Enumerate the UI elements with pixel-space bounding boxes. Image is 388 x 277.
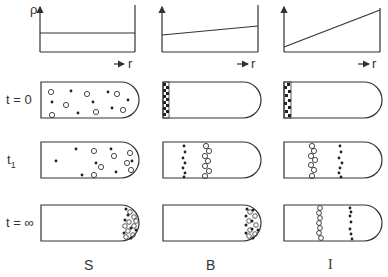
tube-i-t1 xyxy=(284,142,382,178)
particles-s-t0 xyxy=(48,89,129,117)
row-label-t1-sub: 1 xyxy=(11,160,16,170)
density-plot-b xyxy=(162,5,258,64)
row-label-t0: t = 0 xyxy=(6,92,32,107)
particles-i-tinf xyxy=(317,206,354,241)
x-axis-label-i: r xyxy=(372,56,376,71)
tube-b-t1 xyxy=(163,142,261,178)
tubes xyxy=(41,82,382,241)
tube-i-t0 xyxy=(284,82,382,118)
tube-b-tinf xyxy=(163,205,261,241)
particles-s-t1 xyxy=(55,148,134,178)
tube-i-tinf xyxy=(284,205,382,241)
row-label-tinf: t = ∞ xyxy=(6,215,34,230)
x-axis-label-s: r xyxy=(128,56,132,71)
row-label-t1: t1 xyxy=(7,152,16,170)
column-label-i: I xyxy=(328,257,333,273)
particles-i-t1 xyxy=(308,143,343,178)
particles-b-t1 xyxy=(182,143,212,178)
diagram-graphics xyxy=(0,0,388,277)
particles-b-t0 xyxy=(163,82,169,118)
column-label-s: S xyxy=(84,257,93,273)
column-label-b: B xyxy=(206,257,215,273)
tube-b-t0 xyxy=(163,82,261,118)
x-axis-label-b: r xyxy=(251,56,255,71)
y-axis-label: ρ xyxy=(30,2,37,17)
density-plot-s xyxy=(40,5,135,64)
density-plot-i xyxy=(284,7,380,64)
sedimentation-diagram: ρ r r r t = 0 t1 t = ∞ S B I xyxy=(0,0,388,277)
particles-i-t0 xyxy=(284,82,291,118)
